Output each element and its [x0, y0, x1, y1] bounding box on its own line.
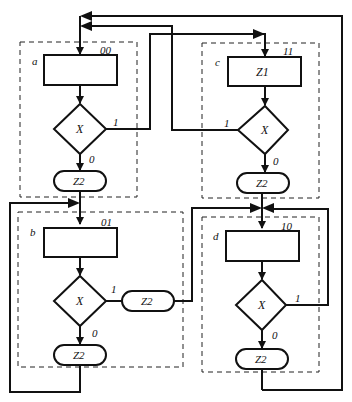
block-d-branch-1-label: 1 [295, 292, 301, 304]
block-d-condition: X [257, 298, 266, 312]
block-c-branch-0-label: 0 [273, 155, 279, 167]
arrow-into-d-right [262, 203, 274, 213]
arrow-into-c [253, 29, 265, 39]
arrow-into-d-left [250, 203, 262, 213]
block-a-condition: X [75, 122, 84, 136]
block-d-output: Z2 [255, 353, 267, 365]
block-b-label: b [30, 226, 36, 238]
block-c-state-code: 11 [283, 45, 293, 57]
block-c-output: Z2 [256, 177, 268, 189]
block-c-label: c [215, 56, 220, 68]
block-b-branch-0-label: 0 [92, 327, 98, 339]
block-b-output: Z2 [73, 349, 85, 361]
block-c-condition: X [260, 123, 269, 137]
block-c-branch-1-label: 1 [224, 117, 230, 129]
block-d-branch-0-label: 0 [272, 329, 278, 341]
block-c-operator: Z1 [256, 65, 269, 79]
arrow-into-a-2 [80, 21, 92, 31]
block-b-state-code: 01 [101, 216, 112, 228]
block-b-condition: X [75, 294, 84, 308]
block-b-branch-1-label: 1 [111, 283, 117, 295]
block-b-process-box [44, 228, 117, 257]
block-a-branch-1-label: 1 [113, 116, 119, 128]
arrow-into-b [68, 198, 80, 208]
block-d-label: d [213, 230, 219, 242]
block-d-process-box [226, 231, 299, 261]
block-a-state-code: 00 [100, 44, 112, 56]
block-a-output: Z2 [73, 175, 85, 187]
flowchart-canvas: a 00 X 1 0 Z2 c 11 Z1 X 1 0 Z2 b 01 X 1 … [0, 0, 352, 402]
flowchart-svg: a 00 X 1 0 Z2 c 11 Z1 X 1 0 Z2 b 01 X 1 … [0, 0, 352, 402]
block-a-process-box [44, 55, 117, 85]
block-b-branch-1-output: Z2 [141, 295, 153, 307]
arrow-into-a-1 [80, 11, 92, 21]
block-d-state-code: 10 [281, 220, 293, 232]
block-a-branch-0-label: 0 [89, 153, 95, 165]
block-a-label: a [32, 55, 38, 67]
